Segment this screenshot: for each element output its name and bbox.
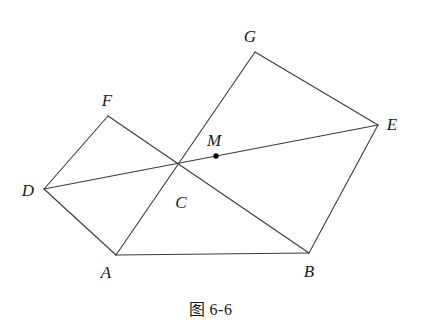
vertex-label-E: E bbox=[387, 116, 397, 133]
geometry-figure: A B C D E F G M 图 6-6 bbox=[0, 0, 421, 331]
vertex-label-C: C bbox=[175, 194, 186, 211]
segment-AG bbox=[116, 52, 255, 255]
segment-GE bbox=[255, 52, 378, 125]
vertex-label-M: M bbox=[207, 132, 221, 149]
segment-AB bbox=[116, 253, 309, 255]
vertex-label-G: G bbox=[244, 28, 256, 45]
vertex-label-B: B bbox=[304, 263, 314, 280]
vertex-label-D: D bbox=[22, 182, 34, 199]
segment-DA bbox=[44, 189, 116, 255]
figure-caption: 图 6-6 bbox=[0, 296, 421, 320]
segment-BE bbox=[309, 125, 378, 253]
vertex-label-F: F bbox=[102, 92, 112, 109]
geometry-canvas bbox=[0, 0, 421, 331]
point-marker-M bbox=[213, 153, 218, 158]
vertex-label-A: A bbox=[101, 264, 111, 281]
